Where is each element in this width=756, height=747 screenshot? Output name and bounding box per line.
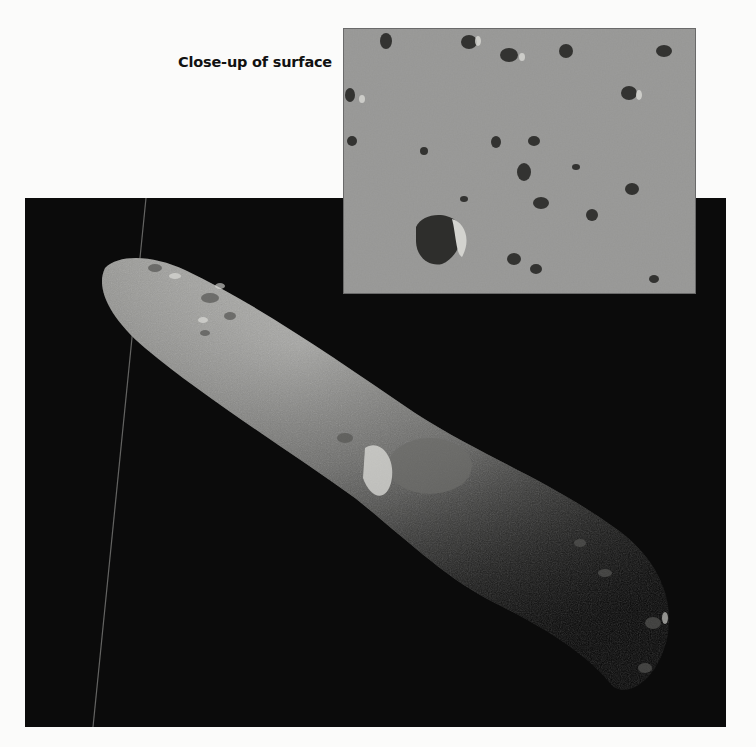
- inset-caption: Close-up of surface: [142, 54, 332, 70]
- surface-closeup-illustration: [344, 29, 696, 294]
- surface-closeup-photo: [343, 28, 696, 294]
